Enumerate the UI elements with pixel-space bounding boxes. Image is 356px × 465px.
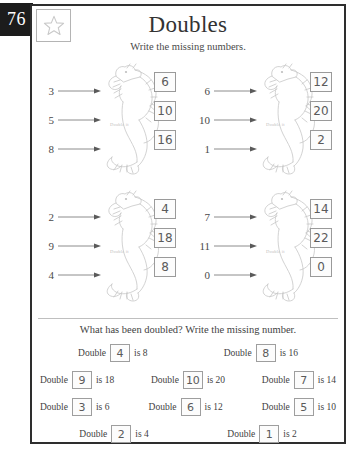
double-item: Double 3 is 6 bbox=[40, 398, 109, 416]
doubled-heading: What has been doubled? Write the missing… bbox=[32, 324, 344, 335]
doubled-row: Double 4 is 8 Double 8 is 16 bbox=[32, 344, 344, 362]
double-label: Double bbox=[151, 375, 179, 385]
double-item: Double 4 is 8 bbox=[78, 344, 147, 362]
double-suffix: is 2 bbox=[283, 429, 296, 439]
answer-box[interactable]: 18 bbox=[154, 228, 176, 248]
doubled-row: Double 3 is 6 Double 6 is 12 Double 5 is… bbox=[32, 398, 344, 416]
input-number: 8 bbox=[40, 143, 54, 155]
double-answer-box[interactable]: 9 bbox=[72, 371, 92, 389]
double-label: Double bbox=[149, 402, 177, 412]
input-number: 9 bbox=[40, 240, 54, 252]
double-item: Double 7 is 14 bbox=[262, 371, 336, 389]
input-number: 2 bbox=[40, 211, 54, 223]
cut-off-footer-text bbox=[30, 455, 346, 465]
answer-box[interactable]: 12 bbox=[310, 72, 332, 92]
answer-box[interactable]: 0 bbox=[310, 257, 332, 277]
double-item: Double 1 is 2 bbox=[227, 425, 296, 443]
section-divider bbox=[38, 318, 338, 319]
double-item: Double 5 is 10 bbox=[262, 398, 336, 416]
double-answer-box[interactable]: 1 bbox=[259, 425, 279, 443]
page-number-badge: 76 bbox=[0, 3, 33, 36]
input-number: 5 bbox=[40, 114, 54, 126]
answer-box[interactable]: 16 bbox=[154, 130, 176, 150]
answer-box[interactable]: 2 bbox=[310, 130, 332, 150]
double-label: Double bbox=[262, 375, 290, 385]
double-suffix: is 12 bbox=[205, 402, 223, 412]
answer-boxes: 14 22 0 bbox=[310, 199, 332, 286]
double-answer-box[interactable]: 6 bbox=[181, 398, 201, 416]
dragon-exercise-top-right: 6 10 1 bbox=[188, 58, 344, 185]
worksheet-header: Doubles Write the missing numbers. bbox=[32, 6, 344, 58]
page-title: Doubles bbox=[32, 6, 344, 38]
double-item: Double 10 is 20 bbox=[151, 371, 225, 389]
double-label: Double bbox=[78, 348, 106, 358]
doubled-section: What has been doubled? Write the missing… bbox=[32, 322, 344, 443]
double-item: Double 2 is 4 bbox=[79, 425, 148, 443]
answer-box[interactable]: 22 bbox=[310, 228, 332, 248]
input-number: 4 bbox=[40, 269, 54, 281]
double-answer-box[interactable]: 10 bbox=[183, 371, 203, 389]
doubled-row: Double 2 is 4 Double 1 is 2 bbox=[32, 425, 344, 443]
double-answer-box[interactable]: 5 bbox=[294, 398, 314, 416]
answer-box[interactable]: 20 bbox=[310, 101, 332, 121]
input-number: 0 bbox=[196, 269, 210, 281]
answer-boxes: 4 18 8 bbox=[154, 199, 176, 286]
double-label: Double bbox=[40, 402, 68, 412]
doubled-row: Double 9 is 18 Double 10 is 20 Double 7 … bbox=[32, 371, 344, 389]
answer-box[interactable]: 4 bbox=[154, 199, 176, 219]
answer-boxes: 6 10 16 bbox=[154, 72, 176, 159]
double-suffix: is 18 bbox=[96, 375, 114, 385]
dragon-label: Double it bbox=[266, 122, 285, 127]
input-number: 3 bbox=[40, 85, 54, 97]
double-suffix: is 14 bbox=[318, 375, 336, 385]
double-suffix: is 20 bbox=[207, 375, 225, 385]
double-label: Double bbox=[40, 375, 68, 385]
dragon-exercise-bottom-right: 7 11 0 bbox=[188, 185, 344, 312]
double-answer-box[interactable]: 7 bbox=[294, 371, 314, 389]
dragon-label: Double it bbox=[110, 249, 129, 254]
answer-box[interactable]: 10 bbox=[154, 101, 176, 121]
input-number: 7 bbox=[196, 211, 210, 223]
dragon-exercise-top-left: 3 5 8 bbox=[32, 58, 188, 185]
answer-boxes: 12 20 2 bbox=[310, 72, 332, 159]
double-item: Double 9 is 18 bbox=[40, 371, 114, 389]
double-suffix: is 8 bbox=[134, 348, 147, 358]
dragon-label: Double it bbox=[110, 122, 129, 127]
double-item: Double 8 is 16 bbox=[224, 344, 298, 362]
answer-box[interactable]: 14 bbox=[310, 199, 332, 219]
worksheet-frame: Doubles Write the missing numbers. 3 5 bbox=[30, 4, 346, 444]
double-label: Double bbox=[224, 348, 252, 358]
answer-box[interactable]: 8 bbox=[154, 257, 176, 277]
double-suffix: is 4 bbox=[135, 429, 148, 439]
dragon-label: Double it bbox=[266, 249, 285, 254]
double-suffix: is 6 bbox=[96, 402, 109, 412]
instruction-text: Write the missing numbers. bbox=[32, 41, 344, 52]
double-label: Double bbox=[79, 429, 107, 439]
double-suffix: is 16 bbox=[280, 348, 298, 358]
star-outline-icon bbox=[36, 9, 71, 42]
double-answer-box[interactable]: 4 bbox=[110, 344, 130, 362]
double-suffix: is 10 bbox=[318, 402, 336, 412]
double-item: Double 6 is 12 bbox=[149, 398, 223, 416]
input-number: 10 bbox=[196, 114, 210, 126]
double-answer-box[interactable]: 3 bbox=[72, 398, 92, 416]
input-number: 11 bbox=[196, 240, 210, 252]
answer-box[interactable]: 6 bbox=[154, 72, 176, 92]
dragon-exercise-bottom-left: 2 9 4 bbox=[32, 185, 188, 312]
input-number: 6 bbox=[196, 85, 210, 97]
double-answer-box[interactable]: 2 bbox=[111, 425, 131, 443]
double-label: Double bbox=[262, 402, 290, 412]
double-label: Double bbox=[227, 429, 255, 439]
double-answer-box[interactable]: 8 bbox=[256, 344, 276, 362]
dragon-exercise-grid: 3 5 8 bbox=[32, 58, 344, 311]
input-number: 1 bbox=[196, 143, 210, 155]
